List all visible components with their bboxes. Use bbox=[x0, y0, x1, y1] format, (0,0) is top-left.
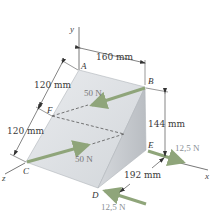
dim-ext-a bbox=[61, 60, 78, 70]
dim-line-ed-upper bbox=[152, 158, 164, 168]
dim-line-ed-lower bbox=[120, 184, 130, 192]
axis-label-x: x bbox=[204, 171, 209, 181]
dim-label-af: 120 mm bbox=[34, 80, 72, 90]
dim-label-ed: 192 mm bbox=[124, 170, 162, 180]
wedge-diagram: y z x A B C D E F 160 mm 120 mm 120 mm 1… bbox=[0, 0, 215, 217]
dim-label-be: 144 mm bbox=[148, 119, 186, 129]
dim-ext-c bbox=[10, 154, 26, 162]
force-label-e: 12,5 N bbox=[175, 143, 200, 153]
force-label-top: 50 N bbox=[84, 88, 102, 98]
point-label-a: A bbox=[80, 61, 87, 71]
point-label-f: F bbox=[46, 105, 53, 115]
dim-ext-b-right bbox=[146, 88, 168, 92]
z-axis bbox=[5, 163, 25, 174]
dim-label-ab: 160 mm bbox=[96, 52, 134, 62]
point-label-e: E bbox=[147, 140, 154, 150]
dim-label-fc: 120 mm bbox=[7, 126, 45, 136]
point-label-b: B bbox=[148, 76, 154, 86]
point-label-c: C bbox=[23, 166, 30, 176]
axis-label-y: y bbox=[69, 24, 74, 34]
force-label-d: 12,5 N bbox=[101, 202, 126, 212]
axis-label-z: z bbox=[1, 173, 6, 183]
x-axis bbox=[180, 163, 208, 170]
force-label-bottom: 50 N bbox=[75, 154, 93, 164]
point-label-d: D bbox=[91, 190, 99, 200]
